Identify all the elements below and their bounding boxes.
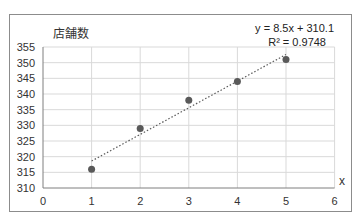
x-tick-labels: 0123456 <box>40 195 338 207</box>
r-squared-label: R² = 0.9748 <box>268 36 326 48</box>
y-tick-label: 310 <box>17 182 35 194</box>
scatter-chart: 310315320325330335340345350355 0123456 店… <box>0 0 362 221</box>
x-axis-label: x <box>339 174 345 188</box>
y-tick-label: 335 <box>17 104 35 116</box>
x-tick-label: 0 <box>40 195 46 207</box>
data-point <box>234 78 241 85</box>
data-point <box>88 166 95 173</box>
data-point <box>137 125 144 132</box>
y-tick-labels: 310315320325330335340345350355 <box>17 41 35 194</box>
gridlines <box>43 47 335 188</box>
x-tick-label: 5 <box>283 195 289 207</box>
y-tick-label: 330 <box>17 119 35 131</box>
y-tick-label: 355 <box>17 41 35 53</box>
x-tick-label: 6 <box>332 195 338 207</box>
y-tick-label: 315 <box>17 166 35 178</box>
x-tick-label: 4 <box>234 195 240 207</box>
x-tick-label: 2 <box>137 195 143 207</box>
y-tick-label: 345 <box>17 72 35 84</box>
data-point <box>185 97 192 104</box>
y-tick-label: 350 <box>17 57 35 69</box>
y-tick-label: 340 <box>17 88 35 100</box>
y-axis-label: 店舗数 <box>53 26 89 41</box>
data-point <box>283 56 290 63</box>
y-tick-label: 325 <box>17 135 35 147</box>
trendline-equation: y = 8.5x + 310.1 <box>255 22 334 34</box>
y-tick-label: 320 <box>17 151 35 163</box>
x-tick-label: 3 <box>186 195 192 207</box>
x-tick-label: 1 <box>89 195 95 207</box>
